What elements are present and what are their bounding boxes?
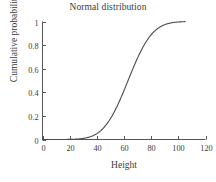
x-axis-tick-labels: 020406080100120	[41, 144, 212, 153]
y-tick-label: 0.4	[28, 89, 38, 98]
y-tick-label: 0	[34, 137, 38, 146]
x-tick-label: 40	[93, 144, 101, 153]
y-tick-label: 0.8	[28, 42, 38, 51]
y-tick-label: 0.6	[28, 66, 38, 75]
chart-figure: Normal distribution Cumulative probabili…	[0, 0, 216, 182]
x-tick-label: 120	[200, 144, 212, 153]
y-tick-label: 0.2	[28, 113, 38, 122]
x-tick-label: 100	[172, 144, 184, 153]
x-tick-label: 0	[41, 144, 45, 153]
x-tick-label: 60	[120, 144, 128, 153]
data-series-line	[43, 22, 186, 140]
x-tick-label: 80	[147, 144, 155, 153]
plot-area: 00.20.40.60.81 020406080100120	[0, 0, 216, 182]
y-tick-label: 1	[34, 19, 38, 28]
x-tick-label: 20	[66, 144, 74, 153]
y-axis-tick-marks	[43, 23, 47, 141]
y-axis-tick-labels: 00.20.40.60.81	[28, 19, 38, 146]
